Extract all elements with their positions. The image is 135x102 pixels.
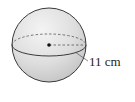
center-point [47, 43, 51, 47]
radius-label: 11 cm [89, 54, 121, 69]
sphere-diagram: 11 cm [0, 0, 135, 102]
